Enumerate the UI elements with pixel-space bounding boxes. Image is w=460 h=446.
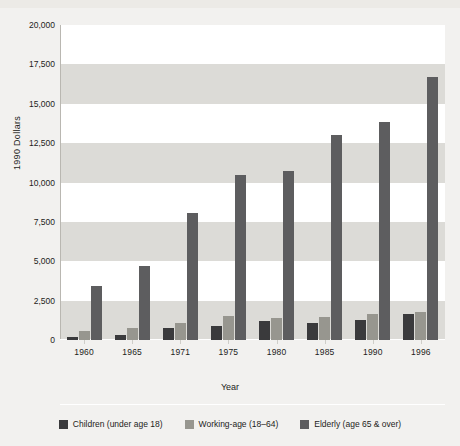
bar-group-1965: 1965 (108, 25, 156, 340)
bar-working-1960 (79, 331, 90, 340)
bar-group-1975: 1975 (204, 25, 252, 340)
bar-group-1985: 1985 (301, 25, 349, 340)
bar-children-1985 (307, 323, 318, 340)
bar-working-1985 (319, 317, 330, 340)
x-tick-label-1965: 1965 (108, 347, 156, 357)
legend-label-elderly: Elderly (age 65 & over) (314, 419, 401, 429)
legend-separator (60, 404, 445, 405)
y-tick-label-20000: 20,000 (3, 20, 55, 30)
x-tick-mark-1975 (228, 340, 229, 344)
x-tick-mark-1996 (421, 340, 422, 344)
bar-group-1960: 1960 (60, 25, 108, 340)
y-tick-label-0: 0 (3, 335, 55, 345)
x-tick-label-1980: 1980 (253, 347, 301, 357)
legend-item-working[interactable]: Working-age (18–64) (185, 419, 279, 429)
x-tick-mark-1980 (277, 340, 278, 344)
bar-elderly-1965 (139, 266, 150, 340)
legend-swatch-working-icon (185, 420, 194, 429)
chart-figure: 1990 Dollars 20,000 17,500 15,000 12,500… (0, 0, 460, 446)
x-tick-label-1971: 1971 (156, 347, 204, 357)
bar-working-1996 (415, 312, 426, 340)
bar-working-1965 (127, 328, 138, 340)
x-tick-mark-1971 (180, 340, 181, 344)
y-tick-label-7500: 7,500 (3, 217, 55, 227)
y-tick-label-2500: 2,500 (3, 296, 55, 306)
plot-area: 20,000 17,500 15,000 12,500 10,000 7,500… (60, 25, 445, 340)
bar-elderly-1990 (379, 122, 390, 340)
top-edge-stripe (0, 0, 460, 8)
x-tick-label-1960: 1960 (60, 347, 108, 357)
y-tick-label-10000: 10,000 (3, 178, 55, 188)
bar-children-1960 (67, 337, 78, 340)
bar-children-1990 (355, 320, 366, 340)
bar-elderly-1985 (331, 135, 342, 340)
legend-swatch-children-icon (59, 420, 68, 429)
bar-children-1996 (403, 314, 414, 340)
bar-elderly-1960 (91, 286, 102, 340)
y-tick-label-5000: 5,000 (3, 256, 55, 266)
bar-working-1971 (175, 323, 186, 340)
x-tick-label-1985: 1985 (301, 347, 349, 357)
bar-group-1980: 1980 (253, 25, 301, 340)
x-axis-title: Year (0, 382, 460, 392)
x-tick-label-1996: 1996 (397, 347, 445, 357)
x-tick-label-1990: 1990 (349, 347, 397, 357)
legend-item-elderly[interactable]: Elderly (age 65 & over) (300, 419, 401, 429)
bar-group-1971: 1971 (156, 25, 204, 340)
bar-groups: 19601965197119751980198519901996 (60, 25, 445, 340)
legend-item-children[interactable]: Children (under age 18) (59, 419, 163, 429)
bar-group-1990: 1990 (349, 25, 397, 340)
y-tick-label-17500: 17,500 (3, 59, 55, 69)
bar-elderly-1996 (427, 77, 438, 340)
bar-elderly-1971 (187, 213, 198, 340)
bar-working-1980 (271, 318, 282, 340)
bar-working-1990 (367, 314, 378, 340)
bar-children-1975 (211, 326, 222, 340)
legend-label-working: Working-age (18–64) (199, 419, 279, 429)
bar-group-1996: 1996 (397, 25, 445, 340)
x-tick-label-1975: 1975 (204, 347, 252, 357)
x-tick-mark-1960 (84, 340, 85, 344)
legend-label-children: Children (under age 18) (73, 419, 163, 429)
bar-elderly-1975 (235, 175, 246, 340)
x-tick-mark-1990 (373, 340, 374, 344)
bar-children-1965 (115, 335, 126, 340)
bar-children-1980 (259, 321, 270, 340)
legend-swatch-elderly-icon (300, 420, 309, 429)
x-tick-mark-1965 (132, 340, 133, 344)
y-tick-label-12500: 12,500 (3, 138, 55, 148)
bar-children-1971 (163, 328, 174, 340)
bar-elderly-1980 (283, 171, 294, 340)
x-tick-mark-1985 (325, 340, 326, 344)
chart-legend: Children (under age 18)Working-age (18–6… (0, 419, 460, 429)
y-tick-label-15000: 15,000 (3, 99, 55, 109)
bar-working-1975 (223, 316, 234, 340)
